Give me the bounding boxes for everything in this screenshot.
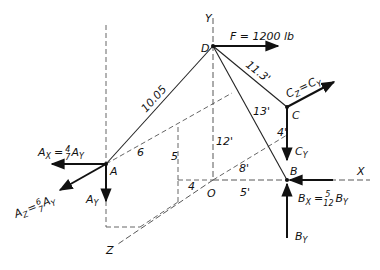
reactions-a: AX=47AY AZ=67AY AY — [11, 145, 106, 224]
dim-6: 6 — [137, 146, 144, 159]
dim-4-c: 4' — [277, 126, 287, 139]
dim-12: 12' — [216, 135, 233, 148]
reaction-by-label: BY — [295, 230, 309, 245]
reaction-bx-label: BX=512BY — [298, 190, 349, 208]
dim-4: 4 — [188, 180, 195, 193]
reactions-b: BX=512BY BY — [287, 180, 349, 245]
reaction-cy-label: CY — [295, 145, 309, 160]
reaction-az-label: AZ=67AY — [11, 191, 59, 224]
x-axis-label: X — [356, 165, 365, 178]
force-label: F = 1200 lb — [230, 30, 294, 43]
z-axis — [118, 180, 213, 244]
point-c-label: C — [292, 109, 300, 122]
construction-lines — [106, 25, 287, 227]
length-db: 13' — [253, 105, 270, 118]
y-axis-label: Y — [205, 12, 213, 25]
dim-5-ob: 5' — [240, 186, 250, 199]
force-f: F = 1200 lb — [213, 30, 294, 46]
member-ad — [106, 46, 213, 164]
point-b-label: B — [290, 165, 298, 178]
z-axis-label: Z — [105, 244, 114, 257]
dim-8: 8' — [239, 162, 249, 175]
dim-5: 5 — [171, 150, 178, 163]
member-lengths: 10.05 11.3' 13' — [139, 58, 273, 118]
point-d-label: D — [201, 42, 209, 55]
member-dc — [213, 46, 287, 107]
reaction-ay-label: AY — [85, 193, 100, 208]
points: D C A B — [104, 42, 300, 182]
axes: Y X Z O — [105, 12, 370, 257]
reaction-ax-label: AX=47AY — [37, 145, 85, 162]
length-dc: 11.3' — [243, 58, 273, 85]
point-a-label: A — [109, 165, 118, 178]
origin-label: O — [207, 187, 216, 200]
statics-diagram: Y X Z O F = 1200 lb D C A B 1 — [0, 0, 380, 270]
